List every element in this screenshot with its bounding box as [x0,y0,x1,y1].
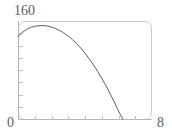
axis-origin-label: 0 [7,116,14,130]
curve-plot [0,0,172,140]
x-axis-max-label: 8 [157,116,164,130]
trajectory-curve [18,26,123,119]
y-axis-max-label: 160 [14,4,35,18]
chart-figure: 160 0 8 [0,0,172,140]
